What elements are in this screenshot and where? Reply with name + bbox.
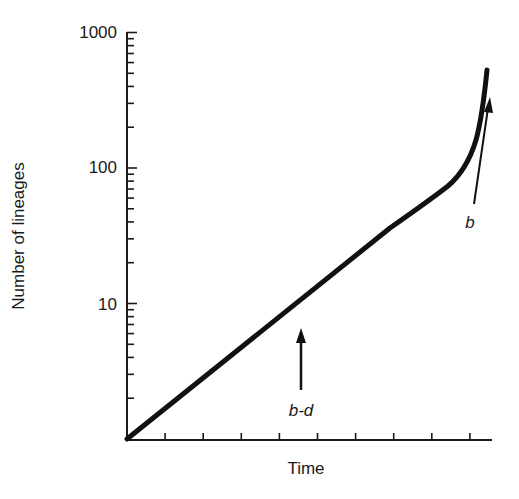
y-tick-label-1000: 1000 — [79, 23, 117, 42]
y-ticks — [127, 33, 137, 399]
y-tick-label-10: 10 — [98, 295, 117, 314]
x-axis-label: Time — [287, 459, 324, 478]
annotation-b-d: b-d — [289, 401, 314, 420]
y-tick-label-100: 100 — [89, 158, 117, 177]
arrow-up-icon — [296, 328, 306, 343]
chart: 1000 100 10 Time Number of lineages b-d … — [0, 0, 519, 499]
lineage-curve — [127, 70, 487, 439]
arrow-b-d — [296, 328, 306, 390]
y-axis-label: Number of lineages — [9, 162, 28, 309]
annotation-b: b — [465, 213, 474, 232]
x-ticks — [165, 433, 470, 440]
